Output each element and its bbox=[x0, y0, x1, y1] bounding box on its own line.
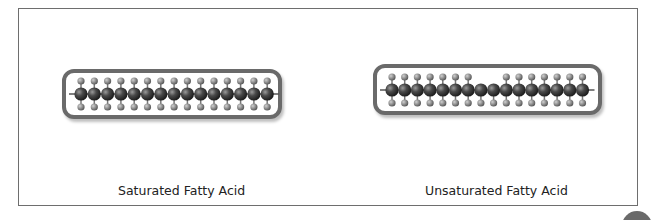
hydrogen-atom bbox=[91, 77, 98, 84]
hydrogen-atom bbox=[264, 77, 271, 84]
unsaturated-chain bbox=[380, 73, 595, 106]
carbon-atom bbox=[551, 83, 564, 96]
carbon-atom bbox=[141, 87, 154, 100]
carbon-atom bbox=[181, 87, 194, 100]
hydrogen-atom bbox=[237, 77, 244, 84]
carbon-atom bbox=[538, 83, 551, 96]
hydrogen-atom bbox=[528, 99, 535, 106]
carbon-atom bbox=[385, 83, 398, 96]
hydrogen-atom bbox=[197, 103, 204, 110]
hydrogen-atom bbox=[250, 103, 257, 110]
hydrogen-atom bbox=[452, 99, 459, 106]
hydrogen-atom bbox=[439, 73, 446, 80]
carbon-atom bbox=[436, 83, 449, 96]
saturated-fatty-acid-label: Saturated Fatty Acid bbox=[118, 183, 245, 198]
hydrogen-atom bbox=[465, 99, 472, 106]
hydrogen-atom bbox=[503, 99, 510, 106]
carbon-atom bbox=[462, 83, 475, 96]
hydrogen-atom bbox=[541, 99, 548, 106]
hydrogen-atom bbox=[528, 73, 535, 80]
hydrogen-atom bbox=[157, 77, 164, 84]
hydrogen-atom bbox=[104, 77, 111, 84]
hydrogen-atom bbox=[388, 99, 395, 106]
hydrogen-atom bbox=[477, 99, 484, 106]
hydrogen-atom bbox=[401, 73, 408, 80]
carbon-atom bbox=[500, 83, 513, 96]
carbon-atom bbox=[221, 87, 234, 100]
carbon-atom bbox=[512, 83, 525, 96]
hydrogen-atom bbox=[117, 77, 124, 84]
hydrogen-atom bbox=[566, 99, 573, 106]
hydrogen-atom bbox=[554, 99, 561, 106]
carbon-atom bbox=[474, 83, 487, 96]
hydrogen-atom bbox=[117, 103, 124, 110]
carbon-atom bbox=[154, 87, 167, 100]
hydrogen-atom bbox=[427, 73, 434, 80]
hydrogen-atom bbox=[144, 77, 151, 84]
carbon-atom bbox=[424, 83, 437, 96]
carbon-atom bbox=[398, 83, 411, 96]
carbon-atom bbox=[194, 87, 207, 100]
hydrogen-atom bbox=[210, 103, 217, 110]
hydrogen-atom bbox=[490, 99, 497, 106]
hydrogen-atom bbox=[224, 103, 231, 110]
hydrogen-atom bbox=[541, 73, 548, 80]
hydrogen-atom bbox=[465, 73, 472, 80]
hydrogen-atom bbox=[554, 73, 561, 80]
hydrogen-atom bbox=[401, 99, 408, 106]
hydrogen-atom bbox=[91, 103, 98, 110]
hydrogen-atom bbox=[210, 77, 217, 84]
hydrogen-atom bbox=[503, 73, 510, 80]
hydrogen-atom bbox=[579, 73, 586, 80]
unsaturated-fatty-acid-label: Unsaturated Fatty Acid bbox=[425, 183, 568, 198]
hydrogen-atom bbox=[104, 103, 111, 110]
carbon-atom bbox=[247, 87, 260, 100]
carbon-atom bbox=[207, 87, 220, 100]
hydrogen-atom bbox=[515, 73, 522, 80]
hydrogen-atom bbox=[77, 77, 84, 84]
hydrogen-atom bbox=[250, 77, 257, 84]
hydrogen-atom bbox=[184, 103, 191, 110]
hydrogen-atom bbox=[224, 77, 231, 84]
carbon-atom bbox=[128, 87, 141, 100]
hydrogen-atom bbox=[77, 103, 84, 110]
hydrogen-atom bbox=[515, 99, 522, 106]
hydrogen-atom bbox=[264, 103, 271, 110]
carbon-atom bbox=[88, 87, 101, 100]
carbon-atom bbox=[487, 83, 500, 96]
hydrogen-atom bbox=[184, 77, 191, 84]
hydrogen-atom bbox=[579, 99, 586, 106]
hydrogen-atom bbox=[197, 77, 204, 84]
carbon-atom bbox=[234, 87, 247, 100]
hydrogen-atom bbox=[144, 103, 151, 110]
carbon-atom bbox=[525, 83, 538, 96]
carbon-atom bbox=[261, 87, 274, 100]
hydrogen-atom bbox=[157, 103, 164, 110]
carbon-atom bbox=[114, 87, 127, 100]
carbon-atom bbox=[168, 87, 181, 100]
hydrogen-atom bbox=[566, 73, 573, 80]
carbon-atom bbox=[576, 83, 589, 96]
hydrogen-atom bbox=[131, 103, 138, 110]
hydrogen-atom bbox=[427, 99, 434, 106]
carbon-atom bbox=[411, 83, 424, 96]
hydrogen-atom bbox=[131, 77, 138, 84]
carbon-atom bbox=[74, 87, 87, 100]
hydrogen-atom bbox=[452, 73, 459, 80]
carbon-atom bbox=[563, 83, 576, 96]
saturated-chain bbox=[69, 77, 279, 110]
carbon-atom bbox=[449, 83, 462, 96]
hydrogen-atom bbox=[414, 73, 421, 80]
hydrogen-atom bbox=[237, 103, 244, 110]
hydrogen-atom bbox=[171, 77, 178, 84]
carbon-atom bbox=[101, 87, 114, 100]
hydrogen-atom bbox=[414, 99, 421, 106]
hydrogen-atom bbox=[171, 103, 178, 110]
hydrogen-atom bbox=[388, 73, 395, 80]
hydrogen-atom bbox=[439, 99, 446, 106]
